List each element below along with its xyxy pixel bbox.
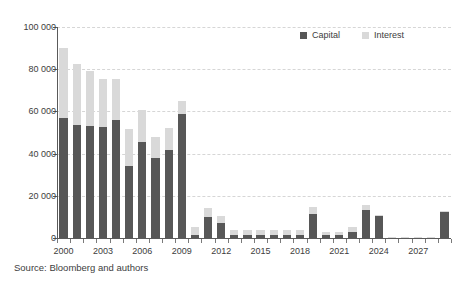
bar-group	[348, 27, 356, 238]
x-tickmark	[110, 239, 111, 243]
bar-group	[99, 27, 107, 238]
bar-group	[243, 27, 251, 238]
bar-segment-capital	[243, 235, 251, 238]
bar-segment-capital	[296, 235, 304, 238]
x-tickmark	[398, 239, 399, 243]
bar-segment-interest	[309, 207, 317, 213]
bar-group	[86, 27, 94, 238]
x-tickmark	[333, 239, 334, 243]
bar-segment-interest	[73, 64, 81, 125]
x-tick-label: 2009	[172, 246, 192, 256]
x-tick-label: 2000	[54, 246, 74, 256]
x-tickmark	[201, 239, 202, 243]
bar-group	[427, 27, 435, 238]
bar-group	[375, 27, 383, 238]
bar-segment-interest	[99, 79, 107, 128]
bar-segment-capital	[362, 210, 370, 238]
bar-segment-interest	[191, 227, 199, 234]
bar-segment-interest	[322, 232, 330, 236]
bar-segment-interest	[112, 79, 120, 120]
bar-segment-capital	[283, 235, 291, 238]
x-tickmark	[267, 239, 268, 243]
x-tickmark	[136, 239, 137, 243]
bar-segment-interest	[256, 230, 264, 236]
legend-swatch-capital	[300, 32, 307, 39]
y-tick-label: 100 000	[23, 22, 56, 32]
bar-segment-capital	[165, 150, 173, 238]
bar-group	[73, 27, 81, 238]
bar-group	[59, 27, 67, 238]
bar-group	[296, 27, 304, 238]
x-tickmark	[372, 239, 373, 243]
x-tick-label: 2006	[132, 246, 152, 256]
bar-segment-capital	[375, 216, 383, 238]
x-tick-label: 2012	[211, 246, 231, 256]
legend-item-interest: Interest	[362, 31, 404, 40]
bar-segment-interest	[270, 230, 278, 236]
bar-segment-capital	[151, 158, 159, 238]
y-tick-label: 0	[51, 233, 56, 243]
x-tickmark	[96, 239, 97, 243]
bar-segment-capital	[59, 118, 67, 238]
x-tickmark	[241, 239, 242, 243]
legend-swatch-interest	[362, 32, 369, 39]
bar-group	[309, 27, 317, 238]
bar-group	[151, 27, 159, 238]
bar-segment-capital	[230, 235, 238, 238]
bar-segment-interest	[151, 137, 159, 158]
bar-group	[178, 27, 186, 238]
x-tickmark	[307, 239, 308, 243]
bar-group	[283, 27, 291, 238]
x-tickmark	[385, 239, 386, 243]
x-tickmark	[175, 239, 176, 243]
bar-segment-capital	[309, 214, 317, 238]
bar-group	[335, 27, 343, 238]
plot-area: 020 00040 00060 00080 000100 000 2000200…	[0, 0, 460, 289]
y-tick-label: 80 000	[28, 64, 56, 74]
bar-segment-interest	[243, 230, 251, 236]
x-tick-label: 2003	[93, 246, 113, 256]
x-tickmark	[438, 239, 439, 243]
x-tickmark	[149, 239, 150, 243]
x-tickmark	[280, 239, 281, 243]
bar-segment-capital	[427, 237, 435, 238]
y-tick-label: 40 000	[28, 149, 56, 159]
bar-segment-capital	[86, 126, 94, 238]
x-tickmark	[123, 239, 124, 243]
bar-segment-capital	[204, 217, 212, 238]
bar-segment-capital	[125, 166, 133, 238]
bar-segment-interest	[296, 230, 304, 236]
bar-group	[125, 27, 133, 238]
x-tick-label: 2018	[290, 246, 310, 256]
x-tickmark	[412, 239, 413, 243]
bar-group	[388, 27, 396, 238]
x-tickmark	[57, 239, 58, 243]
bar-segment-interest	[59, 48, 67, 118]
bar-segment-capital	[73, 125, 81, 238]
bar-segment-capital	[401, 237, 409, 238]
legend-item-capital: Capital	[300, 31, 340, 40]
bar-segment-capital	[348, 232, 356, 238]
y-axis-tick-labels: 020 00040 00060 00080 000100 000	[8, 0, 56, 289]
chart-legend: Capital Interest	[300, 31, 404, 40]
bar-group	[362, 27, 370, 238]
bar-segment-interest	[230, 230, 238, 236]
bar-segment-interest	[178, 101, 186, 114]
x-tickmark	[228, 239, 229, 243]
bar-segment-capital	[99, 127, 107, 238]
bar-segment-interest	[165, 128, 173, 150]
bar-group	[112, 27, 120, 238]
x-tickmark	[320, 239, 321, 243]
x-tickmark	[188, 239, 189, 243]
x-tickmark	[254, 239, 255, 243]
x-tickmark	[346, 239, 347, 243]
x-tickmark	[162, 239, 163, 243]
bar-group	[165, 27, 173, 238]
x-tickmark	[451, 239, 452, 243]
y-tick-label: 60 000	[28, 106, 56, 116]
bar-segment-interest	[348, 227, 356, 231]
bar-segment-interest	[204, 208, 212, 216]
bar-segment-capital	[414, 237, 422, 238]
legend-label-interest: Interest	[374, 31, 404, 40]
bar-segment-interest	[283, 230, 291, 236]
